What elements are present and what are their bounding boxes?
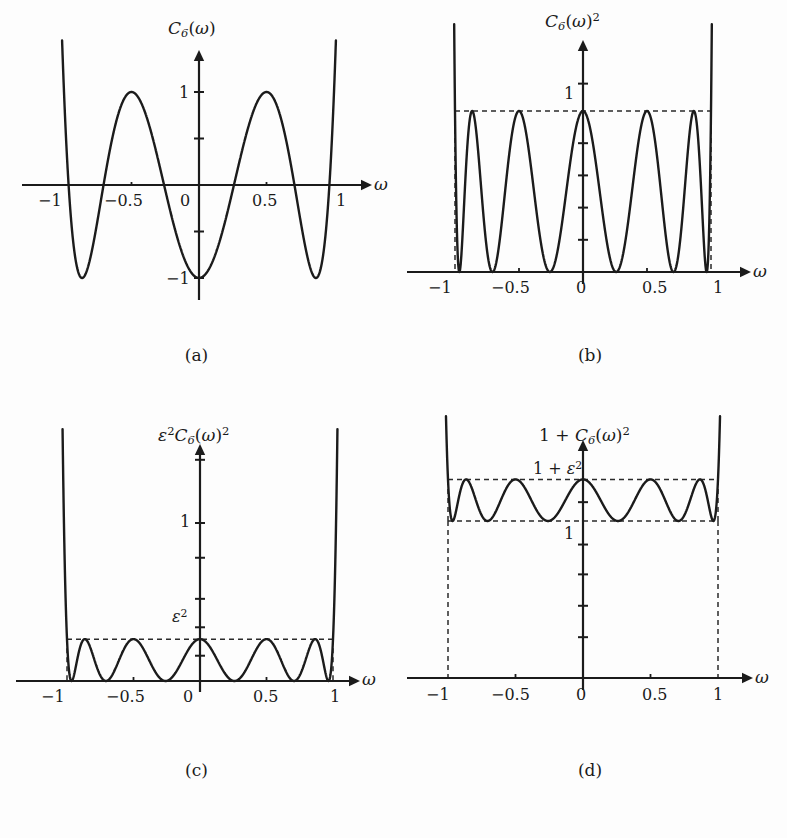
panel-c-ylabel-sup: 2 [222, 424, 229, 438]
panel-a-ylabel-C: C [168, 18, 181, 38]
panel-a-ylabel: C6(ω) [168, 18, 216, 40]
panel-a-xtick-half: 0.5 [252, 191, 277, 210]
panel-d-xtick-neg1: −1 [426, 685, 450, 704]
panel-c-ytick-epssq: ε2 [172, 607, 188, 626]
panel-b-ylabel-paren: (ω) [565, 11, 592, 31]
panel-c-xtick-neg1: −1 [41, 687, 65, 706]
panel-c-ylabel-paren: (ω) [195, 425, 222, 445]
panel-d-ylabel-sup: 2 [622, 424, 629, 438]
panel-b-ylabel-C: C [545, 11, 558, 31]
panel-b-xtick-neghalf: −0.5 [491, 278, 530, 297]
panel-c-xtick-zero: 0 [183, 687, 193, 706]
panel-b-xtick-one: 1 [713, 278, 723, 297]
figure-page: C6(ω) ω −1 −0.5 0 0.5 1 1 −1 (a) C6(ω)2 … [0, 0, 787, 838]
panel-b-xtick-half: 0.5 [642, 278, 667, 297]
panel-d-ylabel-oneplus: 1 + [539, 425, 575, 445]
panel-a-ylabel-paren: (ω) [188, 18, 215, 38]
panel-a-xtick-neghalf: −0.5 [104, 191, 143, 210]
panel-d-ylabel-C: C [575, 425, 588, 445]
panel-d-xtick-half: 0.5 [642, 685, 667, 704]
panel-d-ylabel-paren: (ω) [595, 425, 622, 445]
panel-b-xtick-neg1: −1 [428, 278, 452, 297]
panel-d-ytick-one: 1 [564, 524, 574, 543]
panel-b-xtick-zero: 0 [576, 278, 586, 297]
panel-c-ylabel-eps: ε [158, 425, 167, 445]
panel-a: C6(ω) ω −1 −0.5 0 0.5 1 1 −1 (a) [0, 0, 393, 400]
panel-b-caption: (b) [393, 345, 787, 365]
panel-a-xlabel: ω [374, 174, 388, 194]
panel-a-xtick-zero: 0 [180, 191, 190, 210]
panel-a-xtick-neg1: −1 [38, 191, 62, 210]
panel-c-caption: (c) [0, 760, 393, 780]
panel-d-xlabel: ω [755, 667, 769, 687]
panel-d: 1 + C6(ω)2 1 + ε2 1 ω −1 −0.5 0 0.5 1 (d… [393, 400, 787, 838]
panel-b-xlabel: ω [753, 261, 767, 281]
panel-a-ytick-negone: −1 [166, 269, 190, 288]
panel-b: C6(ω)2 ω −1 −0.5 0 0.5 1 1 (b) [393, 0, 787, 400]
panel-a-ytick-one: 1 [179, 83, 189, 102]
panel-c-xlabel: ω [362, 669, 376, 689]
panel-c: ε2C6(ω)2 ω −1 −0.5 0 0.5 1 1 ε2 (c) [0, 400, 393, 838]
panel-d-ylabel: 1 + C6(ω)2 [539, 424, 630, 447]
panel-c-xtick-one: 1 [330, 687, 340, 706]
panel-a-xtick-one: 1 [336, 191, 346, 210]
panel-d-xtick-neghalf: −0.5 [491, 685, 530, 704]
panel-c-ylabel: ε2C6(ω)2 [158, 424, 229, 447]
panel-d-caption: (d) [393, 760, 787, 780]
panel-c-ylabel-C: C [174, 425, 187, 445]
panel-b-ylabel: C6(ω)2 [545, 10, 600, 33]
panel-a-caption: (a) [0, 345, 393, 365]
panel-d-xtick-one: 1 [713, 685, 723, 704]
panel-b-plot [393, 0, 787, 400]
panel-d-ytick-oneplusepssq: 1 + ε2 [533, 459, 582, 478]
panel-b-ylabel-sup: 2 [593, 10, 600, 24]
panel-b-ytick-one: 1 [564, 84, 574, 103]
panel-c-ytick-one: 1 [180, 512, 190, 531]
panel-d-xtick-zero: 0 [576, 685, 586, 704]
panel-c-xtick-half: 0.5 [253, 687, 278, 706]
panel-c-xtick-neghalf: −0.5 [106, 687, 145, 706]
panel-c-ylabel-sub: 6 [188, 433, 195, 447]
